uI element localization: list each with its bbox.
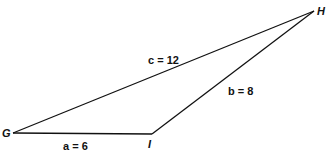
vertex-label-g: G	[2, 127, 11, 139]
side-label-c: c = 12	[148, 54, 179, 66]
side-label-a: a = 6	[63, 140, 88, 152]
vertex-label-h: H	[317, 5, 326, 17]
triangle-diagram: G I H c = 12 b = 8 a = 6	[0, 0, 326, 156]
side-c	[13, 11, 314, 133]
side-label-b: b = 8	[228, 85, 253, 97]
side-a	[13, 133, 152, 134]
side-b	[152, 11, 314, 134]
vertex-label-i: I	[148, 138, 152, 150]
